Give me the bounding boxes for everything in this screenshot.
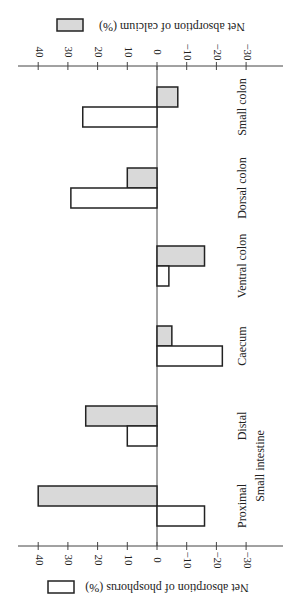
tick-label-bottom: −10 (182, 551, 194, 569)
bar-calcium (157, 246, 205, 266)
bar-calcium (157, 326, 172, 346)
tick-label-bottom: 0 (152, 557, 164, 563)
bar-calcium (157, 87, 178, 107)
legend-label-phosphorus: Net absorption of phosphorus (%) (85, 581, 248, 595)
category-label: Dorsal colon (235, 157, 249, 219)
bar-phosphorus (71, 188, 157, 208)
bar-phosphorus (157, 346, 222, 366)
bar-phosphorus (157, 506, 205, 526)
bar-calcium (86, 406, 157, 426)
tick-label-bottom: 10 (123, 555, 135, 567)
tick-label-top: −20 (212, 43, 224, 61)
category-label: Small colon (235, 78, 249, 136)
bar-phosphorus (83, 107, 157, 127)
tick-label-bottom: −20 (212, 551, 224, 569)
legend-swatch-calcium (57, 19, 83, 31)
category-label: Distal (235, 411, 249, 440)
bar-calcium (38, 486, 157, 506)
legend-swatch-phosphorus (48, 581, 74, 593)
group-label-small-intestine: Small intestine (253, 430, 267, 502)
tick-label-top: −10 (182, 43, 194, 61)
tick-label-top: 10 (123, 47, 135, 59)
tick-label-top: −30 (242, 43, 254, 61)
bar-chart: 404030302020101000−10−10−20−20−30−30Prox… (0, 0, 299, 611)
category-label: Caecum (235, 326, 249, 366)
bar-phosphorus (157, 266, 169, 286)
bar-phosphorus (127, 426, 157, 446)
plot-area: 404030302020101000−10−10−20−20−30−30Prox… (18, 19, 283, 595)
tick-label-top: 30 (63, 47, 75, 59)
category-label: Proximal (235, 483, 249, 528)
bar-calcium (127, 168, 157, 188)
category-label: Ventral colon (235, 234, 249, 298)
tick-label-bottom: −30 (242, 551, 254, 569)
tick-label-bottom: 20 (93, 555, 105, 567)
tick-label-bottom: 40 (34, 555, 46, 567)
tick-label-top: 0 (152, 49, 164, 55)
tick-label-top: 40 (34, 47, 46, 59)
tick-label-bottom: 30 (63, 555, 75, 567)
legend-label-calcium: Net absorption of calcium (%) (99, 20, 245, 34)
tick-label-top: 20 (93, 47, 105, 59)
